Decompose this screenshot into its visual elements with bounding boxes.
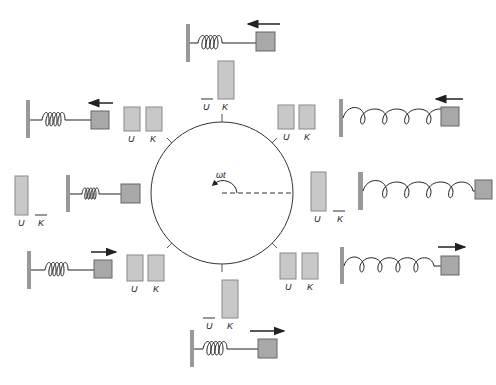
spring (363, 181, 475, 198)
U-label: U (18, 218, 25, 228)
U-label: U (206, 321, 213, 331)
potential-bar (124, 107, 140, 131)
spring (194, 342, 258, 356)
angle-arc-icon (214, 181, 237, 193)
potential-bar (278, 105, 294, 129)
U-label: U (128, 134, 135, 144)
U-label: U (314, 214, 321, 224)
state-right: U K (311, 172, 492, 224)
state-upper-right: U K (278, 99, 463, 142)
state-upper-left: U K (26, 100, 162, 144)
K-label: K (307, 282, 314, 292)
oscillator-diagram: ωt U K U K U K U K (0, 0, 496, 385)
potential-bar (280, 253, 296, 279)
spring (30, 113, 91, 127)
U-label: U (283, 132, 290, 142)
wall (66, 175, 70, 212)
state-bottom: U K (190, 280, 284, 367)
wall (190, 330, 194, 367)
K-label: K (222, 102, 229, 112)
kinetic-bar (222, 280, 238, 318)
block (441, 107, 459, 126)
block (256, 32, 275, 51)
wall (27, 251, 31, 289)
K-label: K (337, 214, 344, 224)
state-lower-left: U K (27, 251, 164, 294)
kinetic-bar (299, 105, 315, 129)
K-label: K (150, 134, 157, 144)
spring (31, 263, 94, 277)
wall (340, 247, 344, 284)
spring (344, 257, 441, 272)
state-left: U K (15, 175, 140, 228)
spring (190, 36, 256, 50)
block (121, 184, 140, 203)
K-label: K (304, 132, 311, 142)
block (475, 180, 492, 199)
angle-label: ωt (216, 170, 226, 180)
state-top: U K (186, 24, 280, 112)
kinetic-bar (146, 107, 162, 131)
kinetic-bar (302, 253, 318, 279)
kinetic-bar (218, 61, 234, 99)
potential-bar (311, 172, 326, 211)
spring (343, 108, 449, 125)
potential-bar (127, 255, 143, 281)
potential-bar (15, 176, 28, 215)
kinetic-bar (148, 255, 164, 281)
spring (70, 188, 121, 199)
U-label: U (203, 102, 210, 112)
block (91, 111, 109, 129)
K-label: K (153, 284, 160, 294)
block (94, 260, 112, 278)
reference-circle: ωt (151, 114, 293, 272)
state-lower-right: U K (280, 247, 465, 292)
K-label: K (227, 321, 234, 331)
K-label: K (38, 218, 45, 228)
block (258, 339, 277, 358)
wall (26, 100, 30, 138)
U-label: U (131, 284, 138, 294)
wall (186, 24, 190, 62)
block (441, 256, 459, 275)
wall (358, 172, 363, 210)
U-label: U (285, 282, 292, 292)
wall (339, 99, 343, 137)
